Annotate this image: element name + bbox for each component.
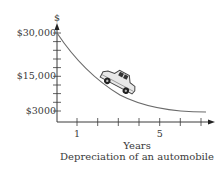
depreciation-chart: $ $30,000 $15,000 $3000 1 5 Years Deprec… (0, 0, 224, 171)
y-tick-label-3000: $3000 (26, 106, 56, 116)
chart-caption: Depreciation of an automobile (60, 151, 214, 162)
x-tick-label-1: 1 (74, 129, 80, 139)
y-axis-unit-label: $ (54, 13, 60, 23)
car-icon (99, 64, 140, 97)
x-axis-title: Years (123, 140, 151, 151)
y-tick-label-30000: $30,000 (17, 28, 56, 38)
chart-plot-area (0, 0, 224, 171)
x-tick-label-5: 5 (157, 129, 163, 139)
y-tick-label-15000: $15,000 (17, 71, 56, 81)
depreciation-curve (57, 33, 206, 112)
x-axis-arrow-icon (208, 120, 215, 125)
